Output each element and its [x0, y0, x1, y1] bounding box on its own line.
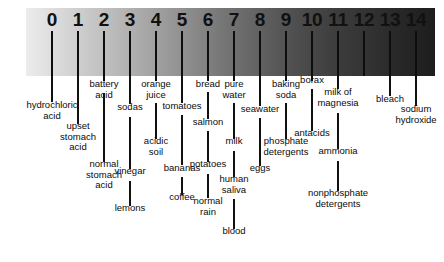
- ph-tick-number-7: 7: [221, 8, 247, 31]
- ph-tick-mark-3: [129, 31, 131, 76]
- ph-tick-mark-9: [285, 31, 287, 76]
- callout-label-milk-of-magnesia: milk of magnesia: [317, 87, 358, 108]
- callout-label-milk: milk: [226, 136, 243, 147]
- leader-line-milk: [233, 103, 235, 139]
- leader-line-normal-stomach-acid: [103, 93, 105, 162]
- leader-line-sodas: [129, 76, 131, 104]
- callout-label-baking-soda: baking soda: [272, 79, 300, 100]
- leader-line-salmon: [207, 92, 209, 119]
- ph-tick-number-11: 11: [325, 8, 351, 31]
- ph-tick-number-10: 10: [299, 8, 325, 31]
- ph-tick-mark-10: [311, 31, 313, 76]
- ph-tick-mark-14: [415, 31, 417, 76]
- ph-tick-mark-1: [77, 31, 79, 76]
- ph-tick-number-13: 13: [377, 8, 403, 31]
- callout-label-nonphosphate-detergents: nonphosphate detergents: [308, 188, 368, 209]
- leader-line-bananas: [181, 115, 183, 165]
- ph-tick-number-14: 14: [403, 8, 429, 31]
- callout-label-hydrochloric-acid: hydrochloric acid: [26, 100, 77, 121]
- callout-label-orange-juice: orange juice: [141, 79, 171, 100]
- ph-tick-mark-12: [363, 31, 365, 76]
- callout-label-ammonia: ammonia: [318, 146, 357, 157]
- ph-tick-number-5: 5: [169, 8, 195, 31]
- callout-label-seawater: seawater: [241, 104, 280, 115]
- callout-label-acidic-soil: acidic soil: [144, 136, 168, 157]
- ph-tick-mark-5: [181, 31, 183, 76]
- ph-tick-mark-0: [51, 31, 53, 76]
- callout-label-human-saliva: human saliva: [219, 174, 248, 195]
- callout-label-pure-water: pure water: [222, 79, 245, 100]
- leader-line-seawater: [259, 76, 261, 106]
- ph-tick-mark-2: [103, 31, 105, 76]
- ph-tick-number-4: 4: [143, 8, 169, 31]
- ph-tick-number-9: 9: [273, 8, 299, 31]
- ph-tick-mark-11: [337, 31, 339, 76]
- leader-line-antacids: [311, 89, 313, 131]
- ph-tick-number-12: 12: [351, 8, 377, 31]
- ph-tick-number-8: 8: [247, 8, 273, 31]
- leader-line-acidic-soil: [155, 103, 157, 139]
- callout-label-upset-stomach-acid: upset stomach acid: [60, 121, 96, 153]
- callout-label-sodium-hydroxide: sodium hydroxide: [395, 104, 436, 125]
- callout-label-potatoes: potatoes: [190, 159, 226, 170]
- ph-tick-number-1: 1: [65, 8, 91, 31]
- leader-line-tomatoes: [181, 76, 183, 103]
- callout-label-tomatoes: tomatoes: [162, 101, 201, 112]
- callout-label-vinegar: vinegar: [114, 166, 145, 177]
- leader-line-phosphate-detergents: [285, 103, 287, 139]
- ph-scale-figure: 01234567891011121314 hydrochloric acidup…: [0, 0, 444, 262]
- ph-tick-mark-6: [207, 31, 209, 76]
- leader-line-vinegar: [129, 117, 131, 169]
- ph-tick-number-3: 3: [117, 8, 143, 31]
- callout-label-battery-acid: battery acid: [89, 79, 118, 100]
- ph-tick-mark-8: [259, 31, 261, 76]
- leader-line-sodium-hydroxide: [415, 76, 417, 106]
- callout-label-coffee: coffee: [169, 192, 195, 203]
- callout-label-normal-rain: normal rain: [193, 196, 222, 217]
- leader-line-eggs: [259, 118, 261, 166]
- ph-tick-number-6: 6: [195, 8, 221, 31]
- callout-label-phosphate-detergents: phosphate detergents: [264, 136, 309, 157]
- callout-label-salmon: salmon: [193, 117, 224, 128]
- callout-label-sodas: sodas: [117, 102, 142, 113]
- ph-tick-mark-13: [389, 31, 391, 76]
- callout-label-blood: blood: [222, 226, 245, 237]
- callout-label-lemons: lemons: [115, 203, 146, 214]
- ph-tick-number-2: 2: [91, 8, 117, 31]
- leader-line-ammonia: [337, 113, 339, 149]
- callout-label-bread: bread: [196, 79, 220, 90]
- callout-label-antacids: antacids: [294, 128, 329, 139]
- ph-tick-number-0: 0: [39, 8, 65, 31]
- ph-tick-mark-4: [155, 31, 157, 76]
- ph-tick-mark-7: [233, 31, 235, 76]
- callout-label-eggs: eggs: [250, 163, 271, 174]
- callout-label-borax: borax: [300, 75, 324, 86]
